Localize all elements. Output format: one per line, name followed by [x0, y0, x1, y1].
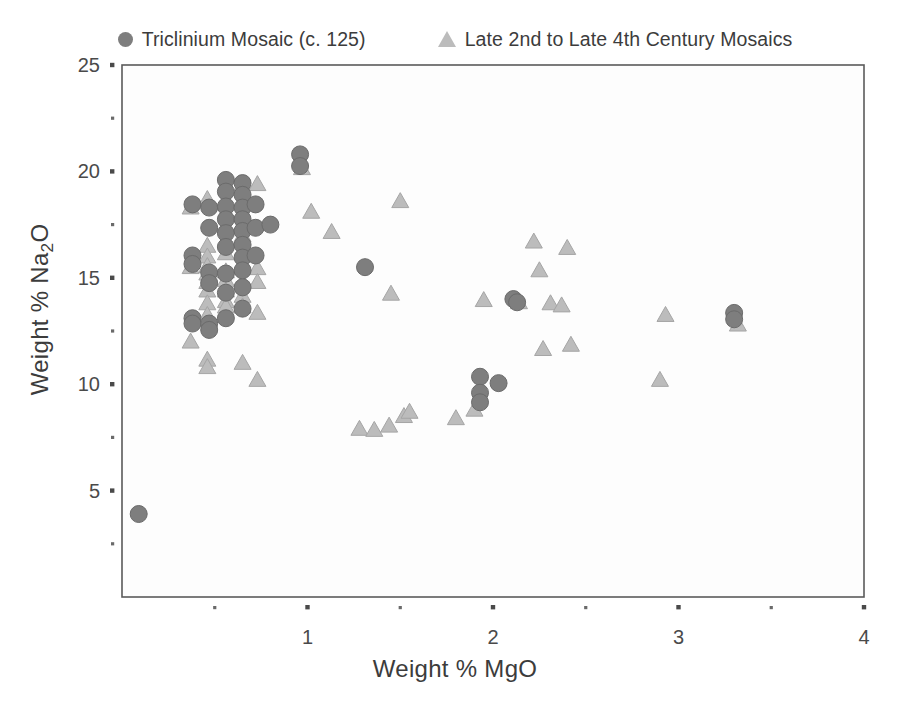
- x-minor-tick: [770, 606, 773, 609]
- data-point-circle: [217, 265, 234, 282]
- y-major-tick: [110, 276, 114, 280]
- plot-canvas: 1234510152025: [0, 0, 910, 720]
- data-point-circle: [217, 310, 234, 327]
- y-tick-label: 20: [78, 160, 100, 182]
- data-point-circle: [509, 294, 526, 311]
- data-point-circle: [234, 279, 251, 296]
- data-point-circle: [201, 275, 218, 292]
- y-tick-label: 10: [78, 373, 100, 395]
- x-axis-title: Weight % MgO: [0, 655, 910, 683]
- data-point-circle: [472, 394, 489, 411]
- x-minor-tick: [399, 606, 402, 609]
- data-point-circle: [130, 506, 147, 523]
- x-minor-tick: [584, 606, 587, 609]
- data-point-circle: [357, 259, 374, 276]
- y-axis-title: Weight % Na2O: [26, 184, 59, 434]
- data-point-circle: [217, 238, 234, 255]
- y-major-tick: [110, 169, 114, 173]
- x-major-tick: [491, 605, 495, 609]
- data-point-circle: [184, 315, 201, 332]
- data-point-circle: [490, 375, 507, 392]
- y-major-tick: [110, 63, 114, 67]
- data-point-circle: [247, 196, 264, 213]
- y-minor-tick: [111, 436, 114, 439]
- data-point-circle: [247, 247, 264, 264]
- x-minor-tick: [213, 606, 216, 609]
- x-major-tick: [862, 605, 866, 609]
- x-major-tick: [305, 605, 309, 609]
- data-point-circle: [184, 255, 201, 272]
- x-major-tick: [676, 605, 680, 609]
- y-tick-label: 25: [78, 54, 100, 76]
- x-tick-label: 3: [673, 626, 684, 648]
- data-point-circle: [262, 216, 279, 233]
- data-point-circle: [234, 300, 251, 317]
- data-point-circle: [472, 368, 489, 385]
- scatter-plot-figure: Triclinium Mosaic (c. 125) Late 2nd to L…: [0, 0, 910, 720]
- data-point-circle: [234, 262, 251, 279]
- y-minor-tick: [111, 542, 114, 545]
- x-tick-label: 4: [858, 626, 869, 648]
- y-minor-tick: [111, 117, 114, 120]
- data-point-circle: [184, 196, 201, 213]
- data-point-circle: [292, 158, 309, 175]
- data-point-circle: [247, 219, 264, 236]
- y-tick-label: 15: [78, 267, 100, 289]
- data-point-circle: [201, 321, 218, 338]
- y-minor-tick: [111, 223, 114, 226]
- y-major-tick: [110, 382, 114, 386]
- data-point-circle: [201, 219, 218, 236]
- data-point-circle: [726, 311, 743, 328]
- y-minor-tick: [111, 329, 114, 332]
- y-tick-label: 5: [89, 480, 100, 502]
- y-major-tick: [110, 488, 114, 492]
- x-tick-label: 2: [487, 626, 498, 648]
- x-tick-label: 1: [302, 626, 313, 648]
- plot-frame: [122, 65, 864, 597]
- data-point-circle: [217, 284, 234, 301]
- data-point-circle: [201, 199, 218, 216]
